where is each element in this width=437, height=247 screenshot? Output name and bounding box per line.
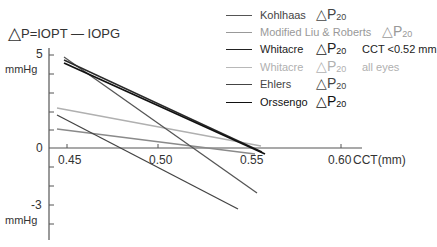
delta-p-label: △P20 <box>382 23 412 39</box>
delta-p-label: △P20 <box>316 6 346 22</box>
chart-title-text: P=IOPT — IOPG <box>21 26 120 41</box>
chart-title: △P=IOPT — IOPG <box>8 23 120 44</box>
y-tick-label-0: 0 <box>36 142 43 154</box>
legend-label: Whitacre <box>260 61 303 73</box>
legend-label: Modified Liu & Roberts <box>260 26 371 38</box>
legend-note: CCT <0.52 mm <box>362 43 437 55</box>
y-tick-label-neg3: -3 <box>31 199 42 211</box>
x-axis-title: CCT(mm) <box>353 154 406 166</box>
legend-note: all eyes <box>362 61 399 73</box>
legend-swatch <box>226 32 252 33</box>
x-tick-label-060: 0.60 <box>328 154 351 166</box>
legend-swatch <box>226 84 252 85</box>
delta-p-label: △P20 <box>316 58 346 74</box>
series-line-orssengo <box>64 63 265 154</box>
legend-swatch <box>226 102 252 103</box>
x-tick-label-055: 0.55 <box>240 154 263 166</box>
legend-label: Kohlhaas <box>260 9 306 21</box>
legend-swatch <box>226 67 252 68</box>
x-tick-label-050: 0.50 <box>149 154 172 166</box>
series-line-kohlhaas <box>64 57 257 193</box>
y-unit-label-bottom: mmHg <box>5 215 37 226</box>
series-line-whitacre-all-eyes <box>57 108 261 146</box>
legend-label: Whitacre <box>260 43 303 55</box>
series-line-modified-liu-roberts <box>57 129 255 154</box>
x-tick-label-045: 0.45 <box>58 154 81 166</box>
y-unit-label-top: mmHg <box>5 64 37 75</box>
legend-swatch <box>226 15 252 16</box>
delta-icon: △ <box>8 24 21 43</box>
y-axis-ticks <box>49 55 54 224</box>
delta-p-label: △P20 <box>316 75 346 91</box>
y-tick-label-5: 5 <box>36 48 43 60</box>
series-line-whitacre-cct <box>64 60 262 152</box>
legend-label: Orssengo <box>260 96 308 108</box>
delta-p-label: △P20 <box>316 93 346 109</box>
legend-label: Ehlers <box>260 78 291 90</box>
legend-swatch <box>226 49 252 50</box>
delta-p-label: △P20 <box>316 40 346 56</box>
